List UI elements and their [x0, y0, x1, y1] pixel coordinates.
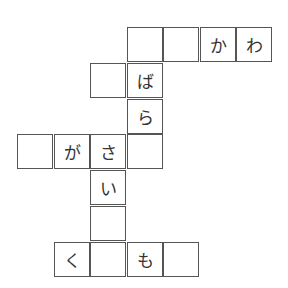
grid-cell-filled: か	[200, 27, 236, 62]
crossword-grid: かわばらがさいくも	[0, 0, 288, 288]
grid-cell-filled: わ	[236, 27, 272, 62]
grid-cell-empty[interactable]	[90, 242, 126, 277]
grid-cell-filled: ら	[127, 99, 163, 134]
grid-cell-empty[interactable]	[163, 27, 199, 62]
grid-cell-empty[interactable]	[127, 134, 163, 169]
grid-cell-empty[interactable]	[17, 134, 53, 169]
grid-cell-empty[interactable]	[127, 27, 163, 62]
grid-cell-empty[interactable]	[163, 242, 199, 277]
grid-cell-filled: が	[54, 134, 90, 169]
grid-cell-empty[interactable]	[90, 206, 126, 241]
grid-cell-filled: ば	[127, 63, 163, 98]
grid-cell-filled: く	[54, 242, 90, 277]
grid-cell-empty[interactable]	[90, 63, 126, 98]
grid-cell-filled: さ	[90, 134, 126, 169]
grid-cell-filled: も	[127, 242, 163, 277]
grid-cell-filled: い	[90, 170, 126, 205]
